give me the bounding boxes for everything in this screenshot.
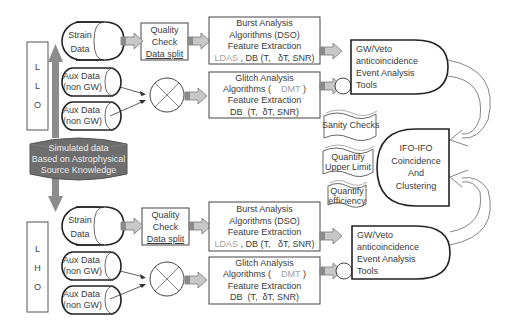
llo-glitch-label: Glitch Analysis Algorithms ( DMT ) Featu… bbox=[209, 73, 320, 118]
llo-junction-circle bbox=[335, 78, 351, 94]
lho-aux-label-1: Aux Data (non GW) bbox=[63, 255, 102, 277]
lho-glitch-label: Glitch Analysis Algorithms ( DMT ) Featu… bbox=[209, 258, 320, 304]
curved-arrow-top bbox=[448, 60, 490, 146]
ifo-coincidence-label: IFO-IFO Coincidence And Clustering bbox=[384, 142, 448, 192]
lho-event-label: GW/Veto anticoincidence Event Analysis T… bbox=[357, 229, 419, 277]
llo-mixer-icon bbox=[150, 78, 184, 112]
lho-junction-circle bbox=[336, 263, 352, 279]
lho-aux-label-2: Aux Data (non GW) bbox=[63, 289, 102, 311]
llo-aux-label-2: Aux Data (non GW) bbox=[63, 105, 102, 127]
doc-sanity-label: Sanity Checks bbox=[322, 120, 378, 131]
doc-efficiency-label: Quantify efficiency bbox=[326, 186, 368, 206]
lho-strain-label: Strain Data bbox=[66, 213, 94, 241]
simulated-up-arrow bbox=[48, 44, 63, 138]
llo-site-label: L L O bbox=[27, 58, 48, 115]
llo-aux-label-1: Aux Data (non GW) bbox=[63, 71, 102, 93]
lho-quality-label: Quality Check Data split bbox=[142, 209, 189, 245]
llo-quality-label: Quality Check Data split bbox=[141, 24, 188, 60]
curved-arrow-bottom bbox=[450, 170, 490, 245]
doc-upper-limit-label: Quantify Upper Limit bbox=[322, 152, 374, 172]
llo-burst-label: Burst Analysis Algorithms (DSO) Feature … bbox=[209, 18, 320, 64]
lho-burst-label: Burst Analysis Algorithms (DSO) Feature … bbox=[209, 204, 320, 250]
lho-mixer-icon bbox=[150, 262, 184, 296]
simulated-data-label: Simulated data Based on Astrophysical So… bbox=[30, 143, 127, 176]
llo-event-label: GW/Veto anticoincidence Event Analysis T… bbox=[356, 43, 418, 91]
simulated-down-arrow bbox=[48, 178, 63, 212]
lho-site-label: L H O bbox=[27, 240, 48, 297]
llo-strain-label: Strain Data bbox=[66, 28, 94, 56]
